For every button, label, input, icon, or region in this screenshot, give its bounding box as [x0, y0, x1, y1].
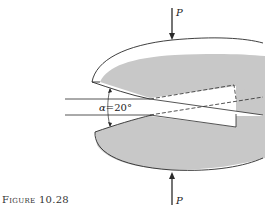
arrowhead-down-icon: [169, 33, 175, 40]
angle-label: α=20°: [99, 102, 132, 113]
figure-caption: Figure 10.28: [2, 194, 69, 205]
caption-word: Figure: [2, 194, 35, 205]
arrowhead-up-icon: [169, 172, 175, 179]
wedge-jaw-diagram: α=20° P P: [0, 0, 277, 216]
caption-number: 10.28: [39, 194, 69, 205]
lower-jaw-fill: [95, 116, 265, 170]
load-label-bottom: P: [175, 195, 183, 206]
load-label-top: P: [175, 7, 183, 18]
